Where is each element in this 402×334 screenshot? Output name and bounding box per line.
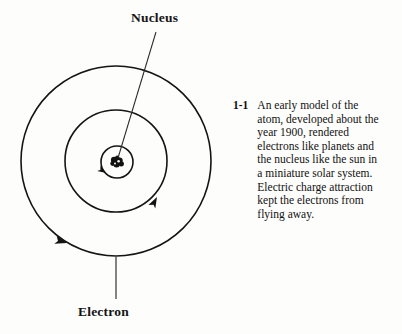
figure-caption: 1-1 An early model of theatom, developed… xyxy=(233,99,399,221)
caption-line: the nucleus like the sun in xyxy=(257,153,383,167)
caption-line: electrons like planets and xyxy=(257,140,383,154)
middle-orbit-arrowhead-icon xyxy=(148,195,160,208)
nucleus-leader-line xyxy=(118,32,156,158)
caption-line: year 1900, rendered xyxy=(257,126,383,140)
figure-number: 1-1 xyxy=(233,99,257,113)
caption-line: atom, developed about the xyxy=(257,113,383,127)
caption-line: flying away. xyxy=(257,208,383,222)
caption-line: kept the electrons from xyxy=(257,194,383,208)
figure-caption-text: An early model of theatom, developed abo… xyxy=(257,99,383,221)
nucleus-cluster-icon xyxy=(110,156,124,168)
caption-line: a miniature solar system. xyxy=(257,167,383,181)
caption-line: An early model of the xyxy=(257,99,383,113)
nucleus-label: Nucleus xyxy=(131,10,178,26)
caption-line: Electric charge attraction xyxy=(257,181,383,195)
electron-label: Electron xyxy=(78,304,129,320)
figure-page: Nucleus Electron 1-1 An early model of t… xyxy=(0,0,402,334)
